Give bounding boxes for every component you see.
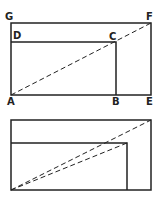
diagonal-inner-dashed [11, 143, 127, 190]
label-B: B [112, 96, 120, 107]
diagram-canvas: G F D C A B E [0, 0, 161, 198]
top-figure [11, 23, 151, 95]
label-D: D [13, 30, 21, 41]
diagonal-outer-dashed [11, 120, 151, 190]
label-C: C [109, 31, 116, 42]
label-E: E [146, 96, 153, 107]
outer-rectangle-AEFG [11, 23, 151, 95]
top-figure-labels: G F D C A B E [5, 11, 153, 107]
label-A: A [7, 96, 15, 107]
outer-rectangle [11, 120, 151, 190]
label-G: G [5, 11, 13, 22]
diagonal-AF-dashed [11, 23, 151, 95]
label-F: F [146, 11, 153, 22]
bottom-figure [11, 120, 151, 190]
